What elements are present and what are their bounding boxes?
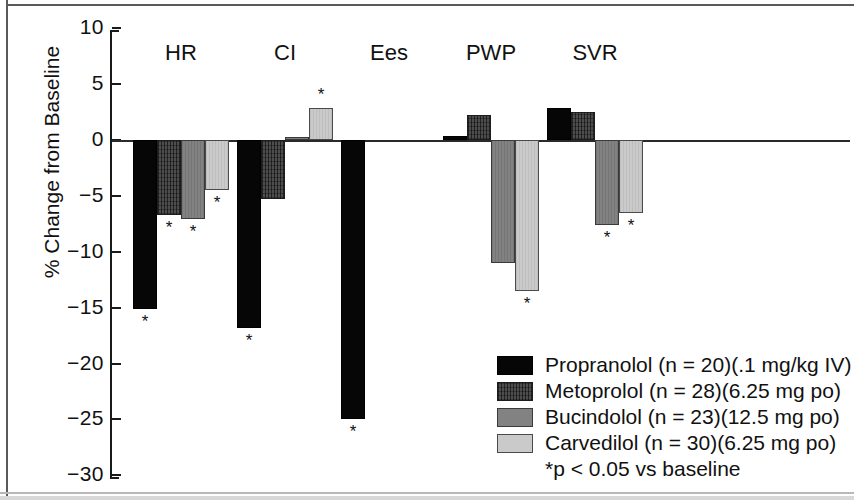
y-tick-label-text: −10 (32, 239, 104, 263)
y-tick-mark (112, 195, 121, 197)
legend-rows: Propranolol (n = 20)(.1 mg/kg IV)Metopro… (497, 352, 849, 456)
y-tick-label-text: 10 (32, 15, 104, 39)
legend-item: Metoprolol (n = 28)(6.25 mg po) (497, 378, 849, 404)
bar-svr-bucindolol (595, 140, 619, 225)
significance-star: * (246, 332, 253, 349)
y-tick-mark (112, 83, 121, 85)
y-tick-mark (112, 251, 121, 253)
bar-ci-carvedilol (309, 108, 333, 140)
legend-item-label: Carvedilol (n = 30)(6.25 mg po) (545, 431, 836, 455)
bar-svr-metoprolol (571, 112, 595, 140)
group-label-hr: HR (165, 40, 197, 66)
legend-item-label: Propranolol (n = 20)(.1 mg/kg IV) (545, 353, 851, 377)
y-tick-label-text: −30 (32, 462, 104, 486)
bar-hr-carvedilol (205, 140, 229, 190)
y-axis-line (110, 31, 112, 478)
group-label-ci: CI (274, 40, 296, 66)
significance-star: * (350, 423, 357, 440)
legend-color-swatch (497, 382, 533, 401)
bar-svr-propranolol (547, 108, 571, 140)
group-label-pwp: PWP (466, 40, 516, 66)
bar-ci-propranolol (237, 140, 261, 328)
bar-svr-carvedilol (619, 140, 643, 213)
y-tick-mark (112, 418, 121, 420)
legend-color-swatch (497, 434, 533, 453)
legend-item: Carvedilol (n = 30)(6.25 mg po) (497, 430, 849, 456)
y-tick-label-text: 5 (32, 71, 104, 95)
legend-item-label: Bucindolol (n = 23)(12.5 mg po) (545, 405, 840, 429)
bar-ci-bucindolol (285, 137, 309, 140)
bar-pwp-metoprolol (467, 115, 491, 140)
bar-hr-bucindolol (181, 140, 205, 219)
bar-hr-propranolol (133, 140, 157, 309)
bar-pwp-propranolol (443, 136, 467, 140)
y-tick-mark (112, 307, 121, 309)
bar-ci-metoprolol (261, 140, 285, 199)
y-tick-label-text: −15 (32, 295, 104, 319)
bar-hr-metoprolol (157, 140, 181, 215)
legend-color-swatch (497, 408, 533, 427)
group-label-ees: Ees (370, 40, 408, 66)
legend-item-label: Metoprolol (n = 28)(6.25 mg po) (545, 379, 841, 403)
bar-pwp-bucindolol (491, 140, 515, 263)
y-tick-label-text: −5 (32, 183, 104, 207)
y-tick-label-text: −25 (32, 406, 104, 430)
legend-item: Propranolol (n = 20)(.1 mg/kg IV) (497, 352, 849, 378)
y-tick-mark (112, 363, 121, 365)
bar-chart-plot-area: % Change from Baseline 1050−5−10−15−20−2… (0, 0, 854, 500)
bar-pwp-carvedilol (515, 140, 539, 291)
significance-star: * (142, 313, 149, 330)
significance-star: * (214, 194, 221, 211)
y-axis-bottom-cap (110, 477, 119, 479)
y-axis-title: % Change from Baseline (40, 2, 64, 322)
legend-item: Bucindolol (n = 23)(12.5 mg po) (497, 404, 849, 430)
significance-star: * (318, 86, 325, 103)
significance-star: * (524, 295, 531, 312)
y-tick-label-text: 0 (32, 127, 104, 151)
significance-star: * (190, 223, 197, 240)
group-label-svr: SVR (572, 40, 617, 66)
legend-footnote: *p < 0.05 vs baseline (545, 456, 849, 482)
figure-canvas: % Change from Baseline 1050−5−10−15−20−2… (0, 0, 854, 500)
significance-star: * (628, 217, 635, 234)
legend: Propranolol (n = 20)(.1 mg/kg IV)Metopro… (497, 352, 849, 482)
y-tick-mark (112, 474, 121, 476)
bar-ees-propranolol (341, 140, 365, 419)
significance-star: * (604, 229, 611, 246)
legend-color-swatch (497, 356, 533, 375)
significance-star: * (166, 219, 173, 236)
y-tick-mark (112, 27, 121, 29)
y-axis-top-cap (110, 30, 119, 32)
y-tick-label-text: −20 (32, 351, 104, 375)
